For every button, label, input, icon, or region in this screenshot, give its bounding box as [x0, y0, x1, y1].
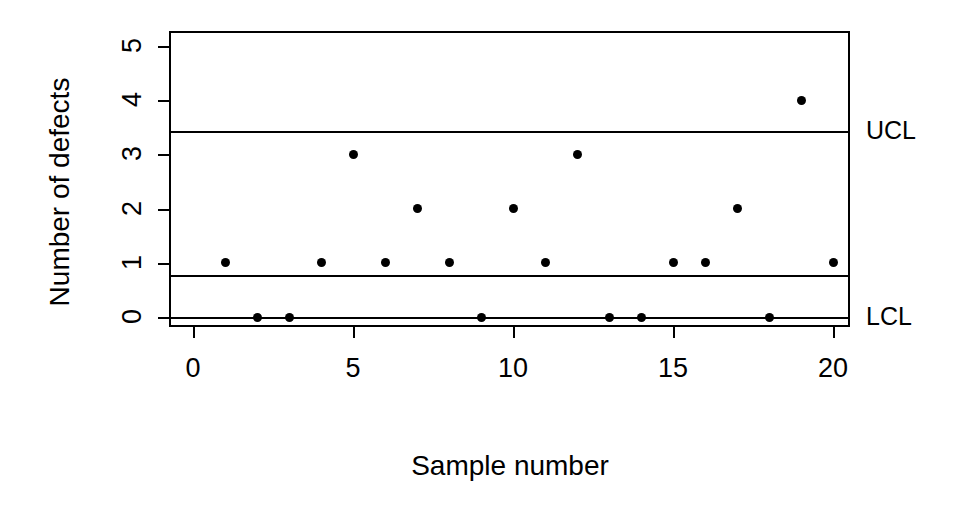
- control-chart: Number of defects Sample number 012345 0…: [0, 0, 955, 512]
- y-tick-label: 4: [119, 80, 146, 120]
- y-tick: [158, 154, 169, 156]
- y-tick: [158, 209, 169, 211]
- y-tick-label: 0: [119, 297, 146, 337]
- y-tick: [158, 100, 169, 102]
- y-axis-title: Number of defects: [46, 42, 74, 342]
- y-tick-label: 1: [119, 242, 146, 282]
- plot-area: [169, 31, 850, 327]
- x-tick-label: 20: [803, 355, 863, 382]
- data-point: [637, 313, 646, 322]
- data-point: [829, 258, 838, 267]
- data-point: [765, 313, 774, 322]
- data-point: [509, 204, 518, 213]
- lcl-label: LCL: [866, 304, 912, 329]
- data-point: [733, 204, 742, 213]
- data-point: [573, 150, 582, 159]
- data-point: [445, 258, 454, 267]
- control-line-lcl: [169, 317, 850, 319]
- x-tick-label: 10: [483, 355, 543, 382]
- data-point: [477, 313, 486, 322]
- x-tick-label: 15: [643, 355, 703, 382]
- y-tick: [158, 317, 169, 319]
- data-point: [349, 150, 358, 159]
- x-axis-title: Sample number: [0, 452, 955, 480]
- x-tick: [673, 327, 675, 338]
- data-point: [541, 258, 550, 267]
- data-point: [221, 258, 230, 267]
- data-point: [253, 313, 262, 322]
- data-point: [317, 258, 326, 267]
- control-line-cl: [169, 275, 850, 277]
- x-tick-label: 0: [163, 355, 223, 382]
- y-tick-label: 5: [119, 26, 146, 66]
- y-tick-label: 3: [119, 134, 146, 174]
- ucl-label: UCL: [866, 118, 916, 143]
- data-point: [285, 313, 294, 322]
- data-point: [701, 258, 710, 267]
- y-tick: [158, 263, 169, 265]
- control-line-ucl: [169, 131, 850, 133]
- y-tick: [158, 46, 169, 48]
- data-point: [669, 258, 678, 267]
- data-point: [381, 258, 390, 267]
- data-point: [797, 96, 806, 105]
- x-tick: [833, 327, 835, 338]
- x-tick-label: 5: [323, 355, 383, 382]
- x-tick: [193, 327, 195, 338]
- data-point: [413, 204, 422, 213]
- x-tick: [513, 327, 515, 338]
- y-tick-label: 2: [119, 188, 146, 228]
- x-tick: [353, 327, 355, 338]
- data-point: [605, 313, 614, 322]
